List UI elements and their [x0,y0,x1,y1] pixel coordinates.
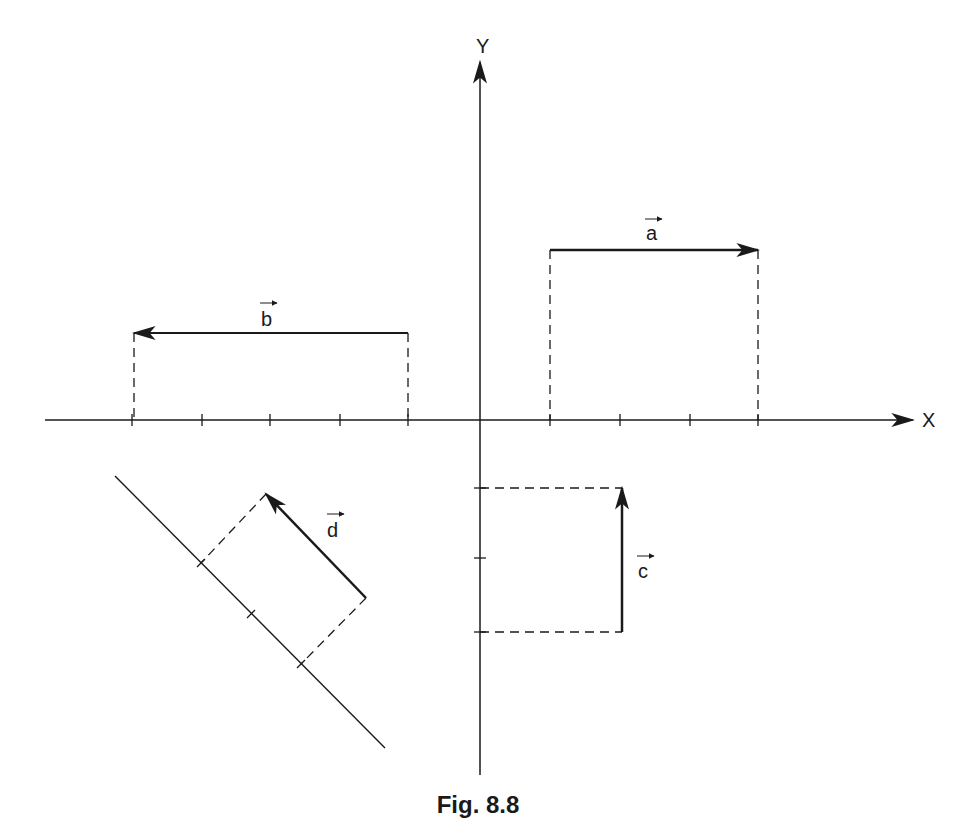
svg-text:b: b [261,308,272,330]
y-axis: Y [474,35,489,775]
vector-b-label: b [260,303,277,330]
vector-d: d [115,476,385,748]
svg-text:a: a [646,222,658,244]
svg-text:d: d [327,519,338,541]
vector-c: c [480,488,654,632]
svg-text:c: c [638,560,648,582]
vector-d-label: d [327,514,344,541]
vector-a-label: a [645,219,662,244]
slanted-axis-line [115,476,385,748]
x-axis-label: X [922,409,935,431]
figure-caption: Fig. 8.8 [437,791,520,818]
vector-projection-figure: X Y a b c [0,0,976,838]
vector-a: a [550,219,758,420]
y-axis-label: Y [476,35,489,57]
vector-c-label: c [637,556,654,582]
x-axis: X [45,409,935,431]
vector-b: b [134,303,408,420]
